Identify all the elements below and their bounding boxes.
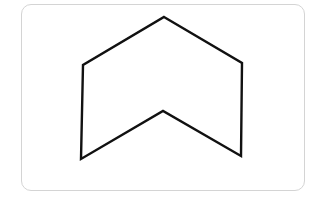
chevron-polygon-diagram <box>0 0 325 202</box>
chevron-shape <box>81 17 242 159</box>
